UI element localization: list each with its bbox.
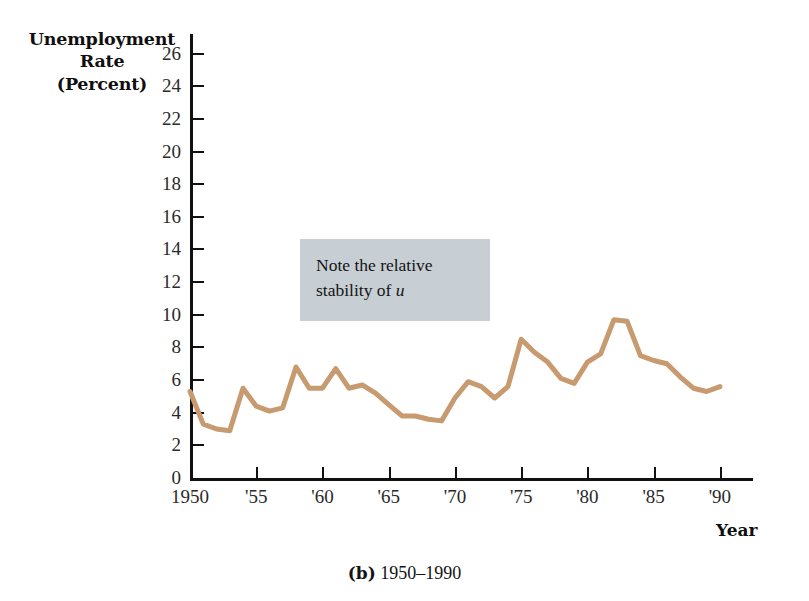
annotation-line-1: Note the relative [316,253,490,278]
annotation-callout: Note the relative stability of u [300,239,490,321]
y-tick-label: 18 [162,173,181,195]
annotation-line-2-text: stability of [316,280,396,300]
y-axis-title-line-3: (Percent) [22,73,182,95]
x-tick-label: '55 [245,486,267,508]
figure-root: Unemployment Rate (Percent) 024681012141… [0,0,809,601]
x-tick-label: '85 [642,486,664,508]
x-tick-label: '70 [444,486,466,508]
y-tick-label: 2 [172,434,182,456]
y-tick-label: 14 [162,238,181,260]
x-tick-label: '75 [510,486,532,508]
y-tick-label: 24 [162,75,181,97]
y-tick-label: 26 [162,43,181,65]
x-axis-title: Year [716,520,757,540]
figure-caption-range: 1950–1990 [380,563,461,583]
y-tick-label: 12 [162,271,181,293]
figure-caption: (b) 1950–1990 [0,563,809,584]
x-tick-label: 1950 [171,486,209,508]
y-axis-title-line-1: Unemployment [22,28,182,50]
y-tick-label: 20 [162,141,181,163]
x-tick-label: '65 [377,486,399,508]
x-tick-label: '60 [311,486,333,508]
y-tick-label: 8 [172,336,182,358]
annotation-line-2: stability of u [316,278,490,303]
annotation-symbol-u: u [396,280,405,300]
x-tick-label: '90 [709,486,731,508]
y-tick-label: 22 [162,108,181,130]
figure-caption-label: (b) [348,563,376,583]
y-tick-label: 16 [162,206,181,228]
y-tick-label: 6 [172,369,182,391]
y-axis-title-line-2: Rate [22,50,182,72]
x-tick-label: '80 [576,486,598,508]
y-tick-label: 10 [162,304,181,326]
y-axis-title: Unemployment Rate (Percent) [22,28,182,95]
y-tick-label: 4 [172,402,182,424]
